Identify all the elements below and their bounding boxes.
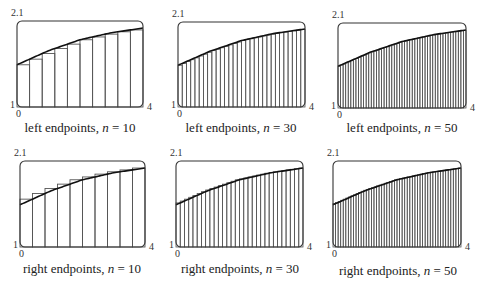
riemann-bar <box>263 36 267 107</box>
riemann-bar <box>80 40 93 107</box>
x-min-label: 0 <box>175 248 180 259</box>
riemann-bar <box>286 170 290 247</box>
panel-caption: left endpoints, n = 50 <box>347 120 458 135</box>
riemann-bar <box>210 189 214 247</box>
riemann-bar <box>199 56 203 107</box>
panel-right-n10: 2.1104right endpoints, n = 10 <box>13 147 154 276</box>
riemann-bar <box>301 30 305 107</box>
riemann-bar <box>186 62 190 107</box>
riemann-bar <box>297 30 301 107</box>
riemann-bar <box>284 32 288 107</box>
riemann-bar <box>214 187 218 247</box>
x-max-label: 4 <box>465 241 470 252</box>
riemann-bar <box>178 65 182 107</box>
riemann-bar <box>295 169 299 247</box>
riemann-bar <box>227 183 231 247</box>
riemann-bar <box>108 172 121 247</box>
riemann-bar <box>229 45 233 107</box>
x-max-label: 4 <box>470 102 475 113</box>
riemann-bar <box>30 59 43 107</box>
riemann-sums-figure: 2.1104left endpoints, n = 102.1104left e… <box>0 0 480 294</box>
riemann-bar <box>193 195 197 247</box>
riemann-bar <box>93 37 106 107</box>
riemann-bar <box>233 43 237 107</box>
x-min-label: 0 <box>177 108 182 119</box>
riemann-bar <box>130 30 143 107</box>
panel-caption: left endpoints, n = 10 <box>25 120 136 135</box>
x-max-label: 4 <box>147 101 152 112</box>
y-max-label: 2.1 <box>170 147 183 158</box>
panel-caption: right endpoints, n = 10 <box>23 261 141 276</box>
riemann-bar <box>206 190 210 247</box>
riemann-bar <box>261 174 265 247</box>
riemann-bar <box>225 46 229 107</box>
riemann-bar <box>237 42 241 107</box>
panel-right-n50: 2.1104right endpoints, n = 50 <box>326 147 470 278</box>
riemann-bar <box>45 189 58 247</box>
y-min-label: 1 <box>326 239 331 250</box>
riemann-bar <box>231 181 235 247</box>
riemann-bar <box>216 49 220 107</box>
riemann-bar <box>223 184 227 247</box>
panel-caption: right endpoints, n = 30 <box>181 261 299 276</box>
riemann-bars <box>17 30 143 107</box>
riemann-bar <box>182 63 186 107</box>
riemann-bar <box>17 65 30 107</box>
riemann-bar <box>20 199 33 247</box>
x-min-label: 0 <box>19 248 24 259</box>
riemann-bar <box>197 194 201 247</box>
riemann-bar <box>273 172 277 247</box>
panel-caption: left endpoints, n = 30 <box>186 120 297 135</box>
riemann-bar <box>254 38 258 107</box>
riemann-bar <box>240 179 244 247</box>
riemann-bar <box>288 31 292 107</box>
riemann-bar <box>252 176 256 247</box>
riemann-bar <box>248 177 252 247</box>
y-max-label: 2.1 <box>14 147 27 158</box>
riemann-bar <box>256 175 260 247</box>
riemann-bar <box>118 32 131 107</box>
riemann-bar <box>201 192 205 247</box>
y-max-label: 2.1 <box>327 147 340 158</box>
riemann-bar <box>290 169 294 247</box>
riemann-bar <box>265 173 269 247</box>
riemann-bar <box>133 168 146 247</box>
x-min-label: 0 <box>16 108 21 119</box>
riemann-bar <box>250 39 254 107</box>
riemann-bar <box>55 49 68 107</box>
x-max-label: 4 <box>309 101 314 112</box>
y-min-label: 1 <box>169 239 174 250</box>
riemann-bar <box>189 197 193 247</box>
y-min-label: 1 <box>13 239 18 250</box>
x-max-label: 4 <box>149 241 154 252</box>
riemann-bar <box>70 180 83 247</box>
riemann-bar <box>246 40 250 107</box>
y-min-label: 1 <box>331 100 336 111</box>
panel-left-n30: 2.1104left endpoints, n = 30 <box>171 8 314 135</box>
riemann-bar <box>105 34 118 107</box>
panel-left-n10: 2.1104left endpoints, n = 10 <box>10 7 152 135</box>
y-max-label: 2.1 <box>332 9 345 20</box>
y-min-label: 1 <box>171 99 176 110</box>
riemann-bar <box>267 35 271 107</box>
riemann-bar <box>258 37 262 107</box>
riemann-bar <box>271 34 275 107</box>
riemann-bar <box>278 171 282 247</box>
panel-caption: right endpoints, n = 50 <box>339 263 457 278</box>
riemann-bar <box>218 186 222 247</box>
x-min-label: 0 <box>332 248 337 259</box>
riemann-bar <box>176 203 180 247</box>
riemann-bar <box>212 51 216 107</box>
x-max-label: 4 <box>307 241 312 252</box>
riemann-bar <box>195 58 199 107</box>
riemann-bar <box>275 33 279 107</box>
y-min-label: 1 <box>10 99 15 110</box>
y-max-label: 2.1 <box>11 7 24 18</box>
riemann-bar <box>191 60 195 107</box>
riemann-bar <box>42 54 55 107</box>
riemann-bar <box>67 44 80 107</box>
riemann-bar <box>184 199 188 247</box>
riemann-bar <box>244 178 248 247</box>
riemann-bar <box>235 180 239 247</box>
riemann-bar <box>203 54 207 107</box>
